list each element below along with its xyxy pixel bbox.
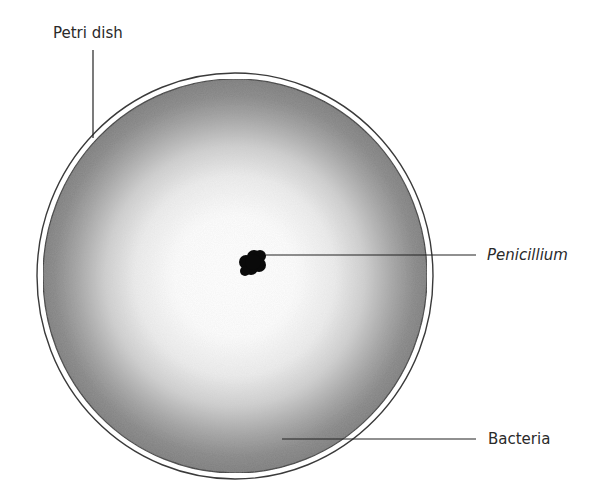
petri-dish-label: Petri dish bbox=[53, 24, 123, 42]
bacteria-label: Bacteria bbox=[488, 430, 550, 448]
bacteria-lawn bbox=[43, 79, 427, 473]
penicillium-label: Penicillium bbox=[487, 246, 568, 264]
